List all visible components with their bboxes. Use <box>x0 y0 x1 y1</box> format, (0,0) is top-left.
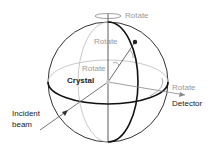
arm-endpoint <box>133 40 137 44</box>
label-crystal: Crystal <box>67 77 94 85</box>
sphere-diagram <box>0 0 224 147</box>
label-rotate-middle: Rotate <box>82 65 106 73</box>
crystal-point <box>106 80 110 84</box>
label-rotate-top: Rotate <box>125 12 149 20</box>
label-detector: Detector <box>172 100 202 108</box>
label-rotate-upper: Rotate <box>94 38 118 46</box>
label-rotate-right: Rotate <box>172 84 196 92</box>
label-beam: beam <box>12 121 32 129</box>
label-incident: Incident <box>12 110 40 118</box>
